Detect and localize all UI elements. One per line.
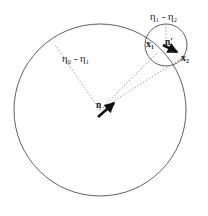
eta-outer-label: η₀ - η₁: [62, 54, 89, 65]
radius-to-x2-line: [100, 57, 183, 110]
x1-point-label: x₁: [146, 39, 154, 49]
n-vector-label: n: [96, 101, 101, 111]
eta-inner-label: η₁ - η₂: [150, 12, 177, 23]
figure-container: η₀ - η₁ η₁ - η₂ x₁ x₂ n n′: [0, 0, 208, 216]
n-prime-vector-label: n′: [165, 38, 173, 48]
x2-point-label: x₂: [181, 53, 189, 63]
diagram-canvas: [0, 0, 208, 216]
radius-to-x1-line: [100, 52, 158, 110]
